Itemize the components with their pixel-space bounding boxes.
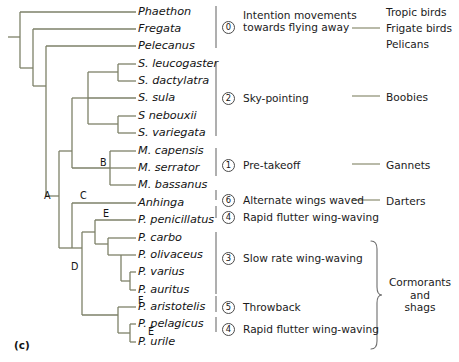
behavior-number-2: 2 <box>222 92 235 105</box>
behavior-text-intention-movements: Intention movements towards flying away <box>243 9 357 34</box>
group-label-cormorants-and-shags: Cormorants and shags <box>384 276 456 314</box>
node-letter-c: C <box>80 191 87 201</box>
taxon-label-anhinga: Anhinga <box>138 197 184 208</box>
phylogeny-figure: Phaethon Fregata Pelecanus S. leucogaste… <box>0 0 459 362</box>
taxon-label-p-varius: P. varius <box>138 266 184 277</box>
node-letter-f: F <box>138 296 144 306</box>
taxon-label-s-sula: S. sula <box>138 92 175 103</box>
node-letter-b: B <box>100 158 107 168</box>
taxon-label-p-carbo: P. carbo <box>138 232 182 243</box>
behavior-text-rapid-flutter-lower: Rapid flutter wing-waving <box>243 323 379 335</box>
node-letter-e-lower: E <box>148 327 154 337</box>
behavior-text-throwback: Throwback <box>243 301 301 313</box>
taxon-label-s-variegata: S. variegata <box>138 127 206 138</box>
behavior-text-rapid-flutter-upper: Rapid flutter wing-waving <box>243 211 379 223</box>
node-letter-e-upper: E <box>103 209 109 219</box>
taxon-label-s-dactylatra: S. dactylatra <box>138 75 209 86</box>
group-label-pelicans: Pelicans <box>386 38 429 51</box>
behavior-number-0: 0 <box>222 21 235 34</box>
taxon-label-pelecanus: Pelecanus <box>138 40 195 51</box>
taxon-label-p-olivaceus: P. olivaceus <box>138 249 203 260</box>
group-label-tropic-birds: Tropic birds <box>386 6 446 19</box>
behavior-text-sky-pointing: Sky-pointing <box>243 92 309 104</box>
taxon-label-p-penicillatus: P. penicillatus <box>138 214 214 225</box>
taxon-label-fregata: Fregata <box>138 23 181 34</box>
behavior-number-4-lower: 4 <box>222 323 235 336</box>
panel-letter: (c) <box>14 339 30 351</box>
group-label-darters: Darters <box>386 195 426 208</box>
taxon-label-phaethon: Phaethon <box>138 6 191 17</box>
behavior-number-5: 5 <box>222 301 235 314</box>
taxon-label-p-urile: P. urile <box>138 336 175 347</box>
taxon-label-m-bassanus: M. bassanus <box>138 179 207 190</box>
taxon-label-m-capensis: M. capensis <box>138 145 204 156</box>
behavior-text-pre-takeoff: Pre-takeoff <box>243 159 300 171</box>
behavior-number-4-upper: 4 <box>222 211 235 224</box>
node-letter-d: D <box>71 262 78 272</box>
behavior-text-alternate-wings-waved: Alternate wings waved <box>243 194 364 206</box>
group-label-gannets: Gannets <box>386 159 430 172</box>
node-letter-a: A <box>44 191 51 201</box>
taxon-label-p-aristotelis: P. aristotelis <box>138 301 205 312</box>
taxon-label-p-auritus: P. auritus <box>138 284 189 295</box>
behavior-number-6: 6 <box>222 194 235 207</box>
behavior-number-1: 1 <box>222 159 235 172</box>
taxon-label-s-nebouxii: S nebouxii <box>138 110 197 121</box>
group-label-frigate-birds: Frigate birds <box>386 22 452 35</box>
taxon-label-s-leucogaster: S. leucogaster <box>138 58 218 69</box>
taxon-label-m-serrator: M. serrator <box>138 162 199 173</box>
behavior-text-slow-rate-wing-waving: Slow rate wing-waving <box>243 252 363 264</box>
behavior-number-3: 3 <box>222 252 235 265</box>
group-label-boobies: Boobies <box>386 91 428 104</box>
